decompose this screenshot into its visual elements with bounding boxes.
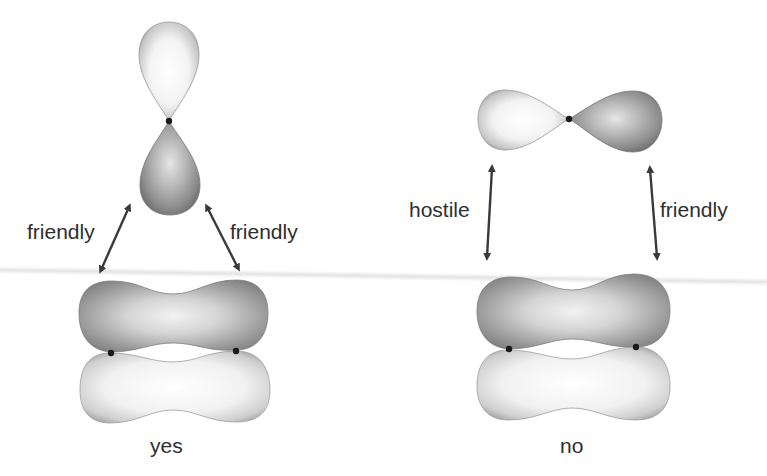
- nucleus-dot: [166, 118, 172, 124]
- nucleus-dot-left: [506, 346, 512, 352]
- upper-dark-pi-lobe: [477, 274, 670, 349]
- left-friendly-label: friendly: [27, 221, 95, 242]
- pi-orbital-right: [477, 274, 670, 420]
- nucleus-dot-right: [233, 348, 239, 354]
- nucleus-dot-right: [633, 344, 639, 350]
- p-orbital-horizontal: [478, 90, 662, 152]
- lower-light-pi-lobe: [477, 347, 670, 420]
- right-dark-lobe: [569, 91, 662, 152]
- lower-dark-lobe: [140, 121, 200, 215]
- hostile-arrow-double: [487, 168, 492, 257]
- right-friendly-label: friendly: [230, 221, 298, 242]
- pi-orbital-left: [79, 280, 270, 423]
- orbital-interaction-diagram: friendly friendly yes hostile friendly n…: [0, 0, 767, 476]
- left-light-lobe: [478, 90, 569, 150]
- friendly-arrow-double: [650, 169, 657, 257]
- hostile-label: hostile: [409, 199, 470, 220]
- nucleus-dot-left: [108, 350, 114, 356]
- caption-no: no: [560, 435, 583, 456]
- caption-yes: yes: [150, 435, 183, 456]
- nucleus-dot: [566, 116, 572, 122]
- upper-light-lobe: [139, 22, 199, 121]
- left-arrow-double: [101, 207, 129, 270]
- diagram-graphics: [0, 0, 767, 476]
- right-side-friendly-label: friendly: [660, 199, 728, 220]
- p-orbital-vertical: [139, 22, 200, 215]
- lower-light-pi-lobe: [80, 351, 270, 423]
- upper-dark-pi-lobe: [79, 280, 268, 352]
